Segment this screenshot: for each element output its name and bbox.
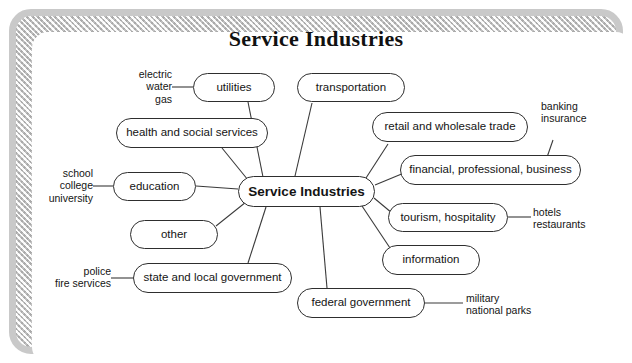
example-police: police — [35, 265, 111, 277]
example-insurance: insurance — [541, 112, 627, 124]
examples-education: school college university — [25, 167, 93, 204]
example-hotels: hotels — [533, 206, 623, 218]
center-node-service-industries[interactable]: Service Industries — [238, 176, 375, 207]
node-information[interactable]: information — [382, 245, 480, 275]
example-university: university — [25, 192, 93, 204]
node-retail-and-wholesale-trade[interactable]: retail and wholesale trade — [372, 112, 528, 142]
example-national-parks: national parks — [466, 304, 566, 316]
node-education[interactable]: education — [113, 172, 196, 201]
example-college: college — [25, 179, 93, 191]
node-tourism-hospitality[interactable]: tourism, hospitality — [388, 203, 508, 232]
node-utilities[interactable]: utilities — [193, 73, 275, 102]
node-other[interactable]: other — [130, 220, 218, 249]
node-transportation[interactable]: transportation — [297, 73, 405, 102]
examples-utilities: electric water gas — [106, 68, 172, 105]
example-fire-services: fire services — [35, 277, 111, 289]
node-financial-professional-business[interactable]: financial, professional, business — [400, 155, 581, 185]
node-federal-government[interactable]: federal government — [297, 288, 425, 318]
diagram-canvas: Service Industries Service Indus — [0, 0, 632, 363]
example-restaurants: restaurants — [533, 218, 623, 230]
node-health-and-social-services[interactable]: health and social services — [116, 118, 268, 148]
page-title: Service Industries — [0, 26, 632, 52]
examples-tourism: hotels restaurants — [533, 206, 623, 231]
example-electric: electric — [106, 68, 172, 80]
node-state-and-local-government[interactable]: state and local government — [133, 263, 292, 293]
examples-financial: banking insurance — [541, 100, 627, 125]
example-school: school — [25, 167, 93, 179]
example-banking: banking — [541, 100, 627, 112]
example-water: water — [106, 80, 172, 92]
example-military: military — [466, 292, 566, 304]
examples-state-local: police fire services — [35, 265, 111, 290]
example-gas: gas — [106, 93, 172, 105]
examples-federal: military national parks — [466, 292, 566, 317]
